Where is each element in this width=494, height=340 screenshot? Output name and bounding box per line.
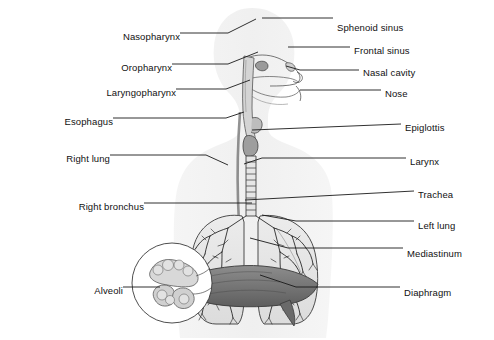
label-diaphragm: Diaphragm [404,287,451,298]
respiratory-system-figure: Nasopharynx Oropharynx Laryngopharynx Es… [0,0,494,340]
label-laryngopharynx: Laryngopharynx [106,87,176,98]
label-right-bronchus: Right bronchus [79,201,144,212]
leader-line-nasal-cavity [286,66,359,70]
label-mediastinum: Mediastinum [407,248,462,259]
label-nasopharynx: Nasopharynx [123,31,180,42]
label-nasal-cavity: Nasal cavity [363,67,415,78]
label-oropharynx: Oropharynx [121,62,172,73]
leader-line-epiglottis [252,124,401,130]
label-esophagus: Esophagus [65,116,113,127]
label-sphenoid-sinus: Sphenoid sinus [337,22,403,33]
label-nose: Nose [385,88,408,99]
leader-line-esophagus [113,112,244,118]
label-alveoli: Alveoli [94,285,123,296]
label-epiglottis: Epiglottis [405,122,445,133]
label-right-lung: Right lung [66,153,110,164]
alveoli-inset-icon [132,243,212,323]
label-trachea: Trachea [418,189,453,200]
label-frontal-sinus: Frontal sinus [354,45,410,56]
label-left-lung: Left lung [418,220,455,231]
trachea-icon [246,156,256,216]
label-larynx: Larynx [410,156,439,167]
